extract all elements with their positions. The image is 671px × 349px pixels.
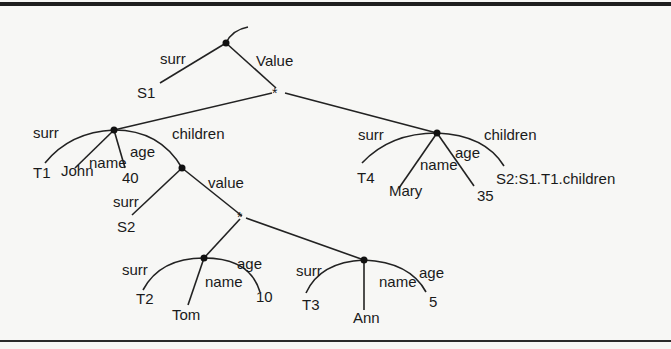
t2-name-edge [188, 258, 204, 305]
t3-name-value: Ann [353, 309, 380, 326]
tree-diagram: surr Value S1 * surr name age children T… [0, 0, 671, 349]
root-surr-label: surr [160, 50, 186, 67]
t1-children-label: children [172, 125, 225, 142]
t3-name-label: name [379, 273, 417, 290]
diagram-frame: surr Value S1 * surr name age children T… [0, 0, 671, 349]
t1-surrogate: T1 [33, 164, 51, 181]
t2-surr-label: surr [122, 261, 148, 278]
t4-name-label: name [420, 156, 458, 173]
t2-node [201, 255, 208, 262]
t4-name-value: Mary [389, 182, 423, 199]
t1-age-label: age [130, 143, 155, 160]
t1-name-label: name [89, 154, 127, 171]
t3-age-value: 5 [429, 293, 437, 310]
t4-age-value: 35 [477, 187, 494, 204]
t2-name-label: name [205, 273, 243, 290]
s2-surr-edge [132, 168, 182, 215]
set-marker-1: * [272, 85, 278, 101]
t1-node [111, 127, 118, 134]
root-tail-edge [226, 27, 248, 43]
t1-name-value: John [61, 162, 94, 179]
t4-age-label: age [455, 144, 480, 161]
t3-node [361, 257, 368, 264]
t1-age-value: 40 [122, 169, 139, 186]
root-surrogate: S1 [137, 84, 155, 101]
t4-surr-label: surr [358, 126, 384, 143]
t4-children-ref: S2:S1.T1.children [496, 170, 615, 187]
set-marker-2: * [237, 209, 243, 225]
s2-surrogate: S2 [117, 218, 135, 235]
t2-surrogate: T2 [136, 290, 154, 307]
t1-surr-label: surr [33, 124, 59, 141]
set2-to-t2-edge [204, 219, 240, 258]
root-value-label: Value [256, 52, 293, 69]
t3-surrogate: T3 [302, 296, 320, 313]
s2-value-label: value [208, 174, 244, 191]
t4-node [434, 130, 441, 137]
t4-children-label: children [484, 126, 537, 143]
t2-name-value: Tom [172, 306, 200, 323]
t2-age-label: age [237, 255, 262, 272]
t4-surrogate: T4 [357, 169, 375, 186]
s2-node [179, 165, 186, 172]
set2-to-t3-edge [246, 218, 364, 260]
t3-age-label: age [419, 264, 444, 281]
t2-age-value: 10 [256, 288, 273, 305]
root-node [223, 40, 230, 47]
s2-surr-label: surr [113, 193, 139, 210]
t3-surr-label: surr [296, 262, 322, 279]
